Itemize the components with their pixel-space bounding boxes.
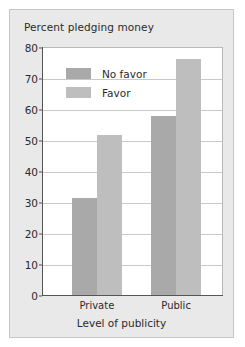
y-tick-label: 60 xyxy=(25,104,38,116)
y-tick-label: 40 xyxy=(25,166,38,178)
y-tick-label: 10 xyxy=(25,259,38,271)
legend-label: No favor xyxy=(102,68,147,80)
bar xyxy=(97,135,122,296)
x-axis-line xyxy=(42,295,223,296)
legend-swatch xyxy=(66,68,91,79)
chart-title: Percent pledging money xyxy=(24,21,154,33)
bar xyxy=(176,59,201,296)
plot-area: 01020304050607080 No favorFavor xyxy=(42,47,223,296)
legend-item: No favor xyxy=(66,64,147,83)
y-tick-label: 70 xyxy=(25,73,38,85)
y-axis-line xyxy=(42,47,43,296)
y-tick-label: 30 xyxy=(25,197,38,209)
legend-swatch xyxy=(66,87,91,98)
y-tick-label: 20 xyxy=(25,228,38,240)
x-axis-label: Level of publicity xyxy=(10,317,233,329)
legend-item: Favor xyxy=(66,83,147,102)
y-tick-label: 50 xyxy=(25,135,38,147)
y-tick-label: 0 xyxy=(31,290,38,302)
x-tick-label: Public xyxy=(161,300,191,311)
x-tick-label: Private xyxy=(79,300,114,311)
legend-label: Favor xyxy=(102,87,130,99)
bar xyxy=(72,198,97,296)
chart-figure: Percent pledging money 01020304050607080… xyxy=(9,9,234,338)
chart-legend: No favorFavor xyxy=(66,64,147,102)
y-tick-label: 80 xyxy=(25,42,38,54)
bar xyxy=(151,116,176,296)
